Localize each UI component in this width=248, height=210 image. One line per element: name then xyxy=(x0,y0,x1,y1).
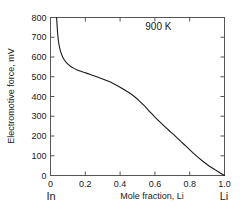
chart-figure: 0100200300400500600700800 00.20.40.60.81… xyxy=(0,0,248,210)
y-tick-label: 600 xyxy=(31,52,46,62)
y-tick-label: 700 xyxy=(31,32,46,42)
y-tick-label: 0 xyxy=(41,171,46,181)
y-tick-label: 500 xyxy=(31,72,46,82)
left-endpoint-label: In xyxy=(46,190,55,202)
plot-frame xyxy=(51,18,225,176)
x-axis-tick-labels: 00.20.40.60.81.0 xyxy=(48,179,231,189)
x-axis-title: Mole fraction, Li xyxy=(120,191,184,201)
y-tick-label: 100 xyxy=(31,151,46,161)
y-tick-label: 300 xyxy=(31,111,46,121)
right-endpoint-label: Li xyxy=(220,190,229,202)
y-axis-title: Electromotive force, mV xyxy=(6,48,16,144)
y-tick-label: 200 xyxy=(31,131,46,141)
y-tick-label: 400 xyxy=(31,92,46,102)
y-tick-label: 800 xyxy=(31,13,46,23)
x-tick-label: 0.8 xyxy=(183,179,196,189)
x-tick-label: 1.0 xyxy=(218,179,231,189)
x-tick-label: 0.6 xyxy=(149,179,162,189)
y-axis-tick-labels: 0100200300400500600700800 xyxy=(31,13,46,181)
x-tick-label: 0 xyxy=(48,179,53,189)
temperature-annotation: 900 K xyxy=(145,21,171,32)
x-tick-label: 0.2 xyxy=(79,179,92,189)
emf-vs-mole-fraction-chart: 0100200300400500600700800 00.20.40.60.81… xyxy=(0,0,248,210)
x-tick-label: 0.4 xyxy=(114,179,127,189)
